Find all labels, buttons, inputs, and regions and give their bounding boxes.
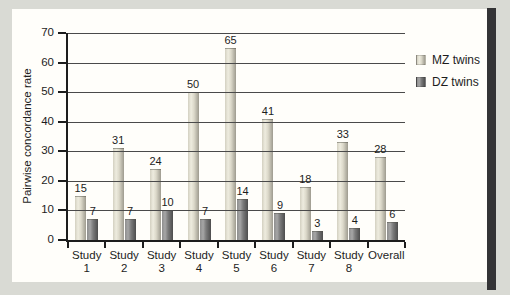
- x-category-label: Study3: [143, 249, 181, 275]
- y-tick-label: 60: [24, 56, 54, 68]
- bar-value-label-dz-study-5: 14: [231, 185, 255, 197]
- x-tick-mark: [104, 242, 106, 248]
- y-tick-label: 10: [24, 203, 54, 215]
- legend-swatch-mz-twins: [416, 55, 426, 65]
- bar-dz-overall: [387, 222, 398, 240]
- x-tick-mark: [329, 242, 331, 248]
- bar-mz-study-5: [225, 48, 236, 240]
- x-tick-mark: [254, 242, 256, 248]
- bar-dz-study-6: [274, 213, 285, 240]
- bar-mz-study-1: [75, 196, 86, 240]
- x-tick-mark: [367, 242, 369, 248]
- bar-mz-study-2: [113, 148, 124, 240]
- x-category-label: Study4: [180, 249, 218, 275]
- x-category-label: Study1: [68, 249, 106, 275]
- bar-dz-study-7: [312, 231, 323, 240]
- y-tick-mark: [58, 180, 66, 182]
- legend-item-mz-twins: MZ twins: [416, 53, 480, 67]
- x-category-label: Overall: [367, 249, 405, 262]
- bar-dz-study-2: [125, 219, 136, 240]
- y-tick-label: 70: [24, 26, 54, 38]
- page-edge-strip: [487, 8, 496, 290]
- bar-value-label-dz-study-3: 10: [156, 196, 180, 208]
- bar-value-label-dz-study-8: 4: [343, 214, 367, 226]
- bar-mz-study-6: [262, 119, 273, 240]
- bar-value-label-mz-study-7: 18: [293, 173, 317, 185]
- bar-dz-study-4: [200, 219, 211, 240]
- chart-panel: Pairwise concordance rate MZ twins DZ tw…: [12, 9, 487, 282]
- gridline: [68, 122, 405, 123]
- x-category-label: Study6: [255, 249, 293, 275]
- x-category-label: Study8: [330, 249, 368, 275]
- bar-value-label-mz-study-8: 33: [331, 128, 355, 140]
- bar-value-label-dz-overall: 6: [380, 208, 404, 220]
- x-axis-line: [66, 240, 405, 242]
- x-tick-mark: [404, 242, 406, 248]
- gridline: [68, 63, 405, 64]
- y-tick-label: 50: [24, 85, 54, 97]
- y-tick-mark: [58, 209, 66, 211]
- bar-dz-study-3: [162, 210, 173, 240]
- y-tick-mark: [58, 91, 66, 93]
- bar-value-label-mz-study-1: 15: [69, 182, 93, 194]
- legend-label-dz-twins: DZ twins: [432, 75, 479, 89]
- bar-dz-study-8: [349, 228, 360, 240]
- bar-dz-study-5: [237, 199, 248, 240]
- y-tick-label: 0: [24, 233, 54, 245]
- bar-value-label-mz-study-2: 31: [106, 134, 130, 146]
- bar-value-label-dz-study-2: 7: [118, 205, 142, 217]
- bar-mz-study-7: [300, 187, 311, 240]
- x-category-label: Study2: [105, 249, 143, 275]
- y-tick-label: 40: [24, 115, 54, 127]
- y-tick-mark: [58, 121, 66, 123]
- bar-value-label-mz-study-6: 41: [256, 105, 280, 117]
- x-tick-mark: [67, 242, 69, 248]
- y-tick-mark: [58, 239, 66, 241]
- x-category-label: Study7: [292, 249, 330, 275]
- bar-mz-overall: [375, 157, 386, 240]
- bar-value-label-dz-study-4: 7: [193, 205, 217, 217]
- bar-value-label-dz-study-6: 9: [268, 199, 292, 211]
- bar-value-label-dz-study-1: 7: [81, 205, 105, 217]
- y-tick-mark: [58, 62, 66, 64]
- x-category-label: Study5: [218, 249, 256, 275]
- y-tick-label: 30: [24, 144, 54, 156]
- y-tick-label: 20: [24, 174, 54, 186]
- bar-value-label-mz-overall: 28: [368, 143, 392, 155]
- bar-value-label-mz-study-3: 24: [144, 155, 168, 167]
- y-tick-mark: [58, 32, 66, 34]
- bar-dz-study-1: [87, 219, 98, 240]
- bar-value-label-mz-study-4: 50: [181, 78, 205, 90]
- legend-label-mz-twins: MZ twins: [432, 53, 480, 67]
- legend-swatch-dz-twins: [416, 77, 426, 87]
- y-tick-mark: [58, 150, 66, 152]
- x-tick-mark: [292, 242, 294, 248]
- gridline: [68, 181, 405, 182]
- gridline: [68, 92, 405, 93]
- x-tick-mark: [179, 242, 181, 248]
- bar-value-label-mz-study-5: 65: [219, 34, 243, 46]
- x-tick-mark: [142, 242, 144, 248]
- gridline: [68, 151, 405, 152]
- legend-item-dz-twins: DZ twins: [416, 75, 479, 89]
- x-tick-mark: [217, 242, 219, 248]
- bar-value-label-dz-study-7: 3: [305, 217, 329, 229]
- bar-mz-study-4: [188, 92, 199, 240]
